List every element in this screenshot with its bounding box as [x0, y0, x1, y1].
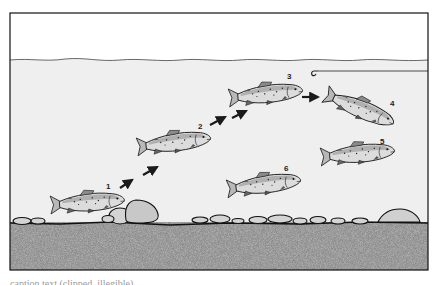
riverbed [10, 222, 428, 270]
salmon-figure: 1 2 3 4 5 6 caption text (clipped, illeg… [0, 0, 440, 285]
figure-svg: 1 2 3 4 5 6 [0, 0, 440, 285]
fish-label-5: 5 [380, 137, 385, 146]
fish-label-4: 4 [390, 99, 395, 108]
fish-label-2: 2 [198, 122, 203, 131]
fish-label-1: 1 [106, 182, 111, 191]
fish-label-6: 6 [284, 164, 289, 173]
figure-caption: caption text (clipped, illegible) [10, 276, 430, 285]
air-region [10, 13, 428, 61]
fish-label-3: 3 [287, 72, 292, 81]
